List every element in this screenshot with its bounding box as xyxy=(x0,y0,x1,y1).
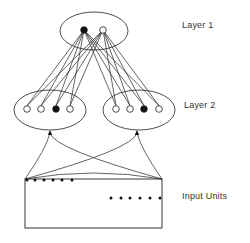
input-unit-dot xyxy=(120,197,123,200)
input-arrow-curve xyxy=(137,133,162,179)
input-unit-dot xyxy=(52,179,55,182)
layer1-unit-inactive xyxy=(100,27,107,34)
layer2-unit-active xyxy=(53,106,60,113)
layer2-unit-inactive xyxy=(127,106,134,113)
layer-ellipses xyxy=(14,12,175,130)
input-unit-dot xyxy=(43,179,46,182)
input-unit-dot xyxy=(71,179,74,182)
arrowhead-icon xyxy=(48,130,52,135)
input-unit-dot xyxy=(61,179,64,182)
layer2-unit-inactive xyxy=(24,106,31,113)
arrowhead-icon xyxy=(135,130,139,135)
input-to-layer2-arrows xyxy=(25,130,162,179)
input-unit-dot xyxy=(139,197,142,200)
network-diagram xyxy=(0,0,250,243)
input-arrow-curve xyxy=(25,133,137,179)
input-arrow-curve xyxy=(50,133,162,179)
input-unit-dot xyxy=(110,197,113,200)
input-top-arc xyxy=(25,173,162,179)
connection-line xyxy=(84,30,159,106)
input-arrow-curve xyxy=(25,133,50,179)
input-units-label: Input Units xyxy=(182,191,227,201)
input-unit-dot xyxy=(26,179,29,182)
layer2-unit-inactive xyxy=(156,106,163,113)
input-unit-dot xyxy=(129,197,132,200)
connection-line xyxy=(41,30,84,106)
input-units-box xyxy=(25,179,162,229)
layer1-layer2-connections xyxy=(27,30,159,106)
connection-line xyxy=(70,30,103,106)
layer2-label: Layer 2 xyxy=(184,100,215,110)
layer1-unit-active xyxy=(81,27,88,34)
layer2-unit-active xyxy=(141,106,148,113)
layer2-unit-inactive xyxy=(67,106,74,113)
layer1-label: Layer 1 xyxy=(182,20,213,30)
connection-line xyxy=(27,30,84,106)
layer2-unit-inactive xyxy=(38,106,45,113)
input-rect xyxy=(25,179,162,228)
layer2-unit-inactive xyxy=(113,106,120,113)
input-unit-dot xyxy=(159,197,162,200)
input-unit-dot xyxy=(149,197,152,200)
input-unit-dot xyxy=(34,179,37,182)
